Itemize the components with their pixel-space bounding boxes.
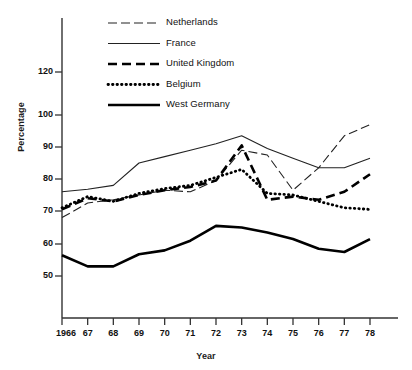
x-tick-label: 69 — [128, 328, 150, 338]
series-line-belgium — [62, 169, 370, 209]
legend-label-netherlands: Netherlands — [166, 16, 218, 27]
y-tick-label: 90 — [29, 141, 53, 151]
y-tick-label: 80 — [29, 173, 53, 183]
x-tick-label: 73 — [231, 328, 253, 338]
legend-label-belgium: Belgium — [166, 78, 201, 89]
x-tick-label: 67 — [77, 328, 99, 338]
series-line-france — [62, 136, 370, 192]
x-axis-title: Year — [0, 345, 412, 363]
data-series-group — [62, 125, 370, 267]
legend-label-united-kingdom: United Kingdom — [166, 57, 234, 68]
x-tick-label: 74 — [256, 328, 278, 338]
x-axis-ticks — [62, 318, 370, 325]
x-axis-title-text: Year — [196, 351, 215, 361]
x-tick-label: 76 — [308, 328, 330, 338]
y-tick-label: 60 — [29, 238, 53, 248]
legend-label-france: France — [166, 37, 196, 48]
legend-sample-lines — [108, 23, 160, 105]
x-tick-label: 70 — [154, 328, 176, 338]
x-tick-label: 77 — [333, 328, 355, 338]
line-chart: 5060708090100120 19666768697071727374757… — [0, 0, 412, 370]
x-tick-label: 75 — [282, 328, 304, 338]
y-tick-label: 100 — [29, 109, 53, 119]
chart-canvas — [0, 0, 412, 370]
y-tick-label: 50 — [29, 270, 53, 280]
y-axis-ticks — [55, 72, 62, 276]
y-tick-label: 70 — [29, 205, 53, 215]
x-tick-label: 71 — [179, 328, 201, 338]
legend-label-west-germany: West Germany — [166, 98, 230, 109]
series-line-west-germany — [62, 226, 370, 267]
x-tick-label: 78 — [359, 328, 381, 338]
x-tick-label: 68 — [102, 328, 124, 338]
x-tick-label: 72 — [205, 328, 227, 338]
y-axis-title: Percentage — [10, 82, 28, 172]
y-axis-title-text: Percentage — [16, 102, 26, 152]
y-tick-label: 120 — [29, 66, 53, 76]
